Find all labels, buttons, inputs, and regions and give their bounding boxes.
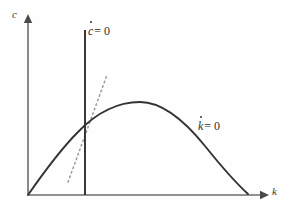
phase-diagram-figure: c k c= 0 k= 0 xyxy=(0,0,288,210)
cdot-zero-label: c= 0 xyxy=(88,25,111,37)
x-axis-arrowhead xyxy=(260,191,269,200)
cdot-overdot xyxy=(90,21,92,23)
kdot-equals-zero: = 0 xyxy=(203,119,221,133)
kdot-variable: k xyxy=(198,120,203,132)
x-axis-label: k xyxy=(272,186,277,197)
cdot-equals-zero: = 0 xyxy=(93,24,111,38)
y-axis-label: c xyxy=(12,9,17,20)
phase-diagram-canvas xyxy=(0,0,288,210)
cdot-variable: c xyxy=(88,25,93,37)
y-axis-arrowhead xyxy=(24,14,32,23)
kdot-zero-curve xyxy=(28,102,248,195)
kdot-zero-label: k= 0 xyxy=(198,120,221,132)
kdot-overdot xyxy=(200,116,202,118)
saddle-path-line xyxy=(68,75,107,182)
